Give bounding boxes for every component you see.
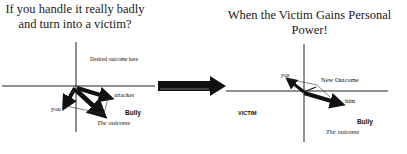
diagram-graphics [0, 0, 407, 154]
left-vectors [66, 88, 108, 114]
big-right-arrow-icon [158, 76, 226, 96]
